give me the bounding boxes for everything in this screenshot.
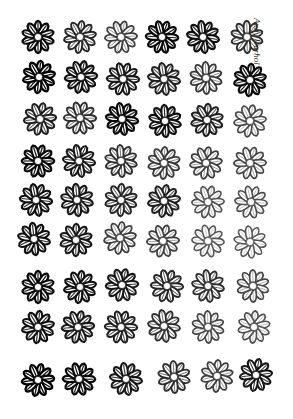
flower-print: [146, 308, 182, 344]
flower-print: [103, 143, 139, 179]
flower-icon: [189, 102, 225, 138]
flower-print: [189, 102, 225, 138]
flower-icon: [146, 61, 182, 97]
flower-print: [236, 309, 272, 345]
flower-icon: [156, 359, 192, 395]
flower-print: [21, 59, 57, 95]
flower-print: [188, 145, 224, 181]
flower-icon: [232, 224, 268, 260]
flower-icon: [105, 61, 141, 97]
flower-icon: [236, 309, 272, 345]
flower-print: [144, 19, 180, 55]
flower-icon: [190, 223, 226, 259]
flower-print: [104, 101, 140, 137]
artist-signature: Andy Warhol: [252, 18, 262, 65]
flower-print: [62, 19, 98, 55]
flower-print: [188, 60, 224, 96]
flower-icon: [147, 103, 183, 139]
flower-print: [149, 268, 185, 304]
flower-icon: [190, 309, 226, 345]
flower-print: [20, 269, 56, 305]
flower-print: [190, 309, 226, 345]
flower-icon: [59, 182, 95, 218]
flower-icon: [62, 100, 98, 136]
flower-icon: [103, 182, 139, 218]
flower-print: [62, 100, 98, 136]
flower-print: [108, 361, 144, 397]
flower-print: [146, 145, 182, 181]
flower-icon: [149, 268, 185, 304]
flower-print: [102, 220, 138, 256]
flower-print: [103, 309, 139, 345]
flower-print: [59, 182, 95, 218]
flower-icon: [104, 267, 140, 303]
flower-print: [18, 182, 54, 218]
flower-print: [58, 222, 94, 258]
flower-icon: [145, 223, 181, 259]
flower-print: [61, 143, 97, 179]
flower-icon: [190, 184, 226, 220]
flower-print: [63, 59, 99, 95]
flower-icon: [188, 60, 224, 96]
flower-print: [61, 361, 97, 397]
flower-icon: [103, 143, 139, 179]
flower-print: [232, 103, 268, 139]
flower-icon: [62, 269, 98, 305]
flower-print: [232, 145, 268, 181]
flower-icon: [61, 143, 97, 179]
flower-print: [238, 357, 274, 393]
flower-print: [190, 268, 226, 304]
flower-icon: [58, 222, 94, 258]
flower-print: [147, 103, 183, 139]
flower-icon: [185, 19, 221, 55]
flower-icon: [104, 101, 140, 137]
flower-print: [20, 362, 56, 398]
flower-icon: [235, 268, 271, 304]
flower-icon: [233, 184, 269, 220]
flower-icon: [199, 358, 235, 394]
flower-icon: [102, 220, 138, 256]
flower-icon: [20, 143, 56, 179]
flower-icon: [61, 361, 97, 397]
flower-print: [199, 358, 235, 394]
flower-print: [103, 182, 139, 218]
flower-print: [145, 223, 181, 259]
flower-print: [20, 19, 56, 55]
flower-print: [235, 268, 271, 304]
flower-icon: [232, 145, 268, 181]
flower-print: [20, 143, 56, 179]
flower-print: [146, 61, 182, 97]
flower-icon: [103, 309, 139, 345]
flower-icon: [146, 183, 182, 219]
flower-print: [103, 19, 139, 55]
flower-icon: [16, 221, 52, 257]
flower-icon: [62, 19, 98, 55]
flower-print: [232, 62, 268, 98]
flower-print: [190, 223, 226, 259]
flower-icon: [146, 145, 182, 181]
flower-print: [20, 309, 56, 345]
flower-icon: [190, 268, 226, 304]
flower-icon: [20, 269, 56, 305]
flower-icon: [103, 19, 139, 55]
flower-icon: [108, 361, 144, 397]
flower-print: [62, 269, 98, 305]
flower-icon: [21, 59, 57, 95]
flower-icon: [20, 362, 56, 398]
flower-print: [60, 309, 96, 345]
flower-icon: [60, 309, 96, 345]
flower-icon: [238, 357, 274, 393]
flower-icon: [188, 145, 224, 181]
flower-icon: [20, 309, 56, 345]
flower-print: [233, 184, 269, 220]
flower-icon: [63, 59, 99, 95]
flower-print: [232, 224, 268, 260]
flower-print: [156, 359, 192, 395]
flower-icon: [144, 19, 180, 55]
flower-icon: [22, 101, 58, 137]
flower-icon: [18, 182, 54, 218]
flower-print: [190, 184, 226, 220]
flower-print: [105, 61, 141, 97]
flower-print: [22, 101, 58, 137]
flower-print: [185, 19, 221, 55]
